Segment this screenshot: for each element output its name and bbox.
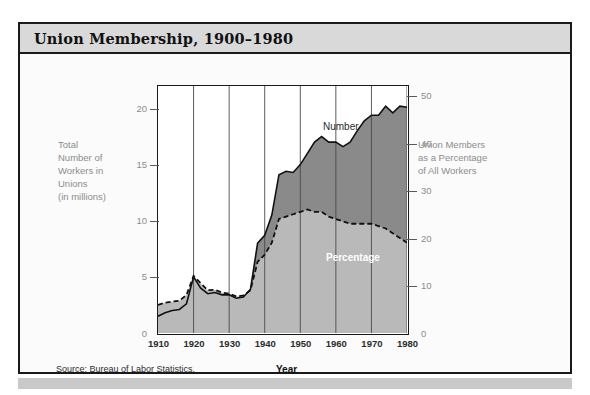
x-tick-label: 1950 [281, 338, 321, 349]
left-tick-mark [150, 109, 159, 110]
right-axis-title: Union Members as a Percentage of All Wor… [418, 138, 538, 177]
page-title: Union Membership, 1900–1980 [34, 30, 293, 47]
series-label-number: Number [323, 121, 359, 132]
x-tick-label: 1970 [352, 338, 392, 349]
right-tick-label: 20 [421, 233, 432, 244]
left-axis-title: Total Number of Workers in Unions (in mi… [58, 138, 153, 203]
left-tick-label: 10 [115, 215, 147, 226]
left-tick-mark [150, 165, 159, 166]
footer-bar [18, 378, 572, 389]
left-tick-mark [150, 221, 159, 222]
right-tick-label: 0 [421, 328, 426, 339]
x-axis-title: Year [276, 364, 297, 375]
percentage-area [158, 210, 407, 334]
right-tick-mark [407, 96, 417, 97]
left-tick-mark [150, 277, 159, 278]
right-tick-label: 10 [421, 280, 432, 291]
right-tick-label: 50 [421, 90, 432, 101]
series-label-percentage: Percentage [326, 252, 380, 263]
left-tick-label: 0 [115, 328, 147, 339]
right-tick-label: 40 [421, 138, 432, 149]
x-tick-label: 1940 [245, 338, 285, 349]
x-tick-label: 1960 [316, 338, 356, 349]
left-tick-label: 5 [115, 271, 147, 282]
x-tick-label: 1910 [139, 338, 179, 349]
x-tick-label: 1980 [388, 338, 428, 349]
right-tick-mark [407, 144, 417, 145]
chart-svg [158, 86, 407, 333]
left-tick-label: 20 [115, 103, 147, 114]
chart-card: Union Membership, 1900–1980 Total Number… [18, 22, 572, 374]
x-tick-label: 1920 [174, 338, 214, 349]
right-tick-mark [407, 191, 417, 192]
chart-page: Union Membership, 1900–1980 Total Number… [0, 0, 590, 395]
plot-area [157, 85, 409, 335]
x-tick-label: 1930 [210, 338, 250, 349]
left-tick-label: 15 [115, 159, 147, 170]
right-tick-mark [407, 286, 417, 287]
right-tick-label: 30 [421, 185, 432, 196]
right-tick-mark [407, 239, 417, 240]
source-note: Source: Bureau of Labor Statistics. [56, 364, 195, 374]
